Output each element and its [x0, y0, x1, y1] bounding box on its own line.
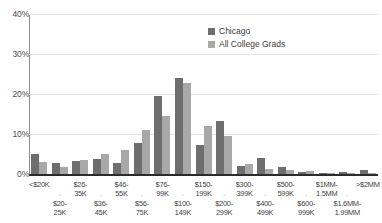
- legend-label-chicago: Chicago: [219, 26, 250, 36]
- bar: [183, 83, 191, 174]
- legend-label-all-college-grads: All College Grads: [219, 39, 285, 49]
- bar-group: [111, 14, 132, 174]
- x-axis-tick-label: >$2MM: [349, 180, 382, 189]
- bar-group: [358, 14, 379, 174]
- bar: [286, 170, 294, 174]
- bar: [121, 150, 129, 174]
- y-axis-tick-20pct: 20%: [2, 90, 29, 99]
- bar: [265, 169, 273, 174]
- y-axis-tick-labels: 0%10%20%30%40%: [0, 0, 29, 223]
- bar-group: [316, 14, 337, 174]
- bar-group: [152, 14, 173, 174]
- bar-group: [173, 14, 194, 174]
- y-axis-tick-0pct: 0%: [2, 170, 29, 179]
- bar: [257, 158, 265, 174]
- bar: [162, 116, 170, 174]
- x-axis-tick-cell: >$2MM: [358, 176, 379, 223]
- bar: [278, 167, 286, 174]
- bar: [113, 163, 121, 174]
- y-axis-tick-40pct: 40%: [2, 10, 29, 19]
- bar: [142, 130, 150, 174]
- bar-groups: [29, 14, 378, 174]
- bar: [93, 159, 101, 174]
- bar: [154, 96, 162, 174]
- x-axis-tick-connector-icon: ·: [346, 192, 348, 199]
- y-axis-tick-10pct: 10%: [2, 130, 29, 139]
- bar: [339, 172, 347, 174]
- bar: [175, 78, 183, 174]
- bar-group: [337, 14, 358, 174]
- bar: [319, 173, 327, 174]
- legend-item-chicago: Chicago: [208, 26, 285, 36]
- bar-group: [296, 14, 317, 174]
- bar: [298, 172, 306, 174]
- bar: [196, 145, 204, 174]
- bar: [245, 164, 253, 174]
- bar: [360, 170, 368, 174]
- bar: [368, 173, 376, 174]
- income-distribution-bar-chart: 0%10%20%30%40% Chicago All College Grads…: [0, 0, 382, 223]
- bar: [216, 121, 224, 174]
- bar: [31, 154, 39, 174]
- bar: [80, 160, 88, 174]
- bar: [327, 173, 335, 174]
- bar: [39, 162, 47, 174]
- bar-group: [132, 14, 153, 174]
- bar-group: [70, 14, 91, 174]
- bar: [72, 161, 80, 174]
- bar: [60, 167, 68, 174]
- bar-group: [91, 14, 112, 174]
- bar: [224, 136, 232, 174]
- legend-swatch-icon-all-college-grads: [208, 41, 215, 48]
- bar: [134, 143, 142, 174]
- legend-swatch-icon-chicago: [208, 28, 215, 35]
- y-axis-tick-30pct: 30%: [2, 50, 29, 59]
- bar: [101, 154, 109, 174]
- bar: [204, 126, 212, 174]
- plot-area: [29, 14, 378, 174]
- legend-item-all-college-grads: All College Grads: [208, 39, 285, 49]
- bar: [237, 166, 245, 174]
- bar-group: [29, 14, 50, 174]
- bar: [306, 171, 314, 174]
- bar-group: [50, 14, 71, 174]
- bar: [52, 163, 60, 174]
- x-axis-tick-labels: <$20K$20-25K·$26-35K$36-45K·$46-55K$56-7…: [29, 176, 378, 223]
- bar: [347, 173, 355, 174]
- chart-legend: Chicago All College Grads: [208, 26, 285, 49]
